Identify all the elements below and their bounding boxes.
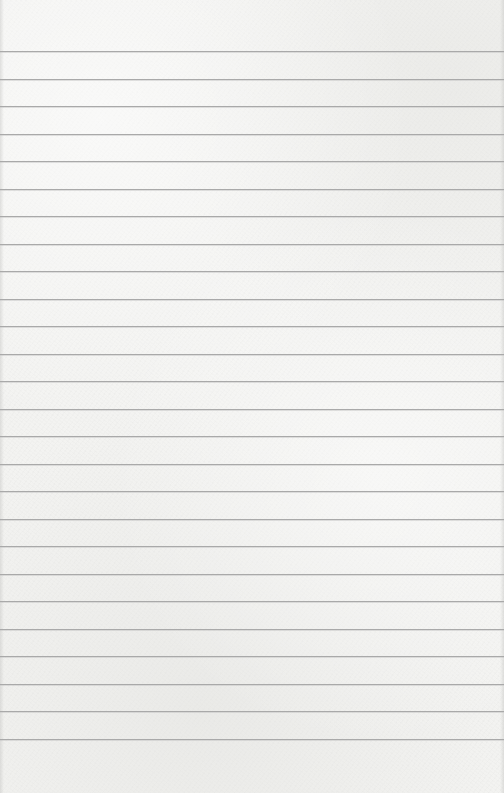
- ruled-line: [0, 299, 504, 300]
- ruled-line: [0, 491, 504, 492]
- paper-right-edge-shadow: [500, 0, 504, 793]
- ruled-line: [0, 546, 504, 547]
- ruled-line: [0, 134, 504, 135]
- ruled-line: [0, 629, 504, 630]
- ruled-line: [0, 271, 504, 272]
- lined-paper: [0, 0, 504, 793]
- paper-left-edge-shadow: [0, 0, 4, 793]
- ruled-line: [0, 436, 504, 437]
- ruled-line: [0, 409, 504, 410]
- ruled-line: [0, 711, 504, 712]
- ruled-line: [0, 464, 504, 465]
- ruled-line: [0, 161, 504, 162]
- ruled-line: [0, 684, 504, 685]
- ruled-line: [0, 244, 504, 245]
- ruled-line: [0, 216, 504, 217]
- ruled-line: [0, 354, 504, 355]
- ruled-line: [0, 189, 504, 190]
- ruled-line: [0, 519, 504, 520]
- ruled-line: [0, 106, 504, 107]
- ruled-line: [0, 51, 504, 52]
- ruled-line: [0, 574, 504, 575]
- ruled-line: [0, 656, 504, 657]
- ruled-line: [0, 381, 504, 382]
- ruled-line: [0, 739, 504, 740]
- ruled-line: [0, 79, 504, 80]
- ruled-line: [0, 601, 504, 602]
- ruled-line: [0, 326, 504, 327]
